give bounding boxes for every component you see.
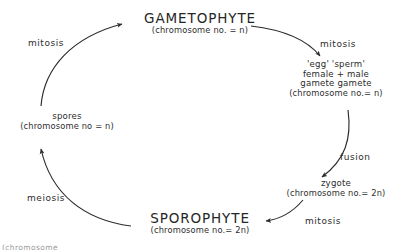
node-zygote: zygote (chromosome no.= 2n) bbox=[272, 179, 400, 198]
node-gametophyte-sublabel: (chromosome no. = n) bbox=[137, 26, 263, 35]
arrow-sporophyte-to-spores bbox=[41, 149, 131, 226]
node-gametes: 'egg' 'sperm' female + male gamete gamet… bbox=[272, 60, 400, 98]
cut-off-caption-fragment: (chromosome bbox=[2, 243, 58, 250]
node-zygote-sublabel: (chromosome no.= 2n) bbox=[272, 189, 400, 198]
node-sporophyte: SPOROPHYTE (chromosome no.= 2n) bbox=[137, 211, 263, 235]
node-gametophyte-label: GAMETOPHYTE bbox=[137, 11, 263, 26]
life-cycle-diagram: GAMETOPHYTE (chromosome no. = n) 'egg' '… bbox=[0, 0, 402, 251]
process-label-meiosis-sporophyte-to-spores: meiosis bbox=[27, 193, 65, 203]
node-spores-sublabel: (chromosome no = n) bbox=[6, 122, 128, 131]
node-gametes-sublabel: (chromosome no.= n) bbox=[272, 89, 400, 98]
process-label-fusion-gametes-to-zygote: fusion bbox=[340, 152, 371, 162]
node-spores: spores (chromosome no = n) bbox=[6, 112, 128, 131]
arrow-spores-to-gametophyte bbox=[41, 24, 122, 106]
process-label-mitosis-gametophyte-to-gametes: mitosis bbox=[320, 39, 356, 49]
node-gametophyte: GAMETOPHYTE (chromosome no. = n) bbox=[137, 11, 263, 35]
node-sporophyte-label: SPOROPHYTE bbox=[137, 211, 263, 226]
process-label-mitosis-zygote-to-sporophyte: mitosis bbox=[305, 216, 341, 226]
arrow-gametes-to-zygote bbox=[322, 110, 349, 177]
node-sporophyte-sublabel: (chromosome no.= 2n) bbox=[137, 226, 263, 235]
arrow-zygote-to-sporophyte bbox=[266, 200, 303, 221]
process-label-mitosis-spores-to-gametophyte: mitosis bbox=[28, 38, 64, 48]
